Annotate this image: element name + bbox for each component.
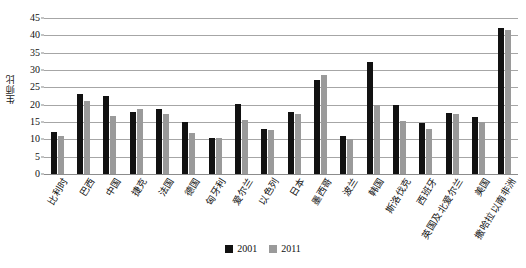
legend-label: 2011 xyxy=(281,244,301,254)
legend-item: 2011 xyxy=(269,244,301,254)
x-tick-label: 巴西 xyxy=(78,176,97,198)
bar-2001 xyxy=(314,80,320,174)
bar-2001 xyxy=(103,96,109,174)
x-tick-label: 波兰 xyxy=(341,176,360,198)
bar-group xyxy=(149,18,175,174)
chart-legend: 20012011 xyxy=(0,244,526,254)
plot-area xyxy=(44,18,518,174)
bar-2011 xyxy=(453,114,459,174)
y-tick-label: 15 xyxy=(30,117,40,127)
gridline xyxy=(44,174,518,175)
bar-group xyxy=(334,18,360,174)
bar-2011 xyxy=(426,129,432,174)
bar-group xyxy=(123,18,149,174)
bar-group xyxy=(70,18,96,174)
x-tick-label: 法国 xyxy=(157,176,176,198)
x-tick-label: 美国 xyxy=(473,176,492,198)
bar-2011 xyxy=(110,116,116,174)
bar-group xyxy=(202,18,228,174)
bar-chart: 生师比 051015202530354045 比利时巴西中国捷克法国德国匈牙利爱… xyxy=(0,0,526,268)
x-axis-labels: 比利时巴西中国捷克法国德国匈牙利爱尔兰以色列日本墨西哥波兰韩国斯洛伐克西班牙英国… xyxy=(44,176,518,250)
y-tick-label: 0 xyxy=(35,169,40,179)
bar-group xyxy=(307,18,333,174)
bar-2011 xyxy=(400,121,406,174)
x-tick-label: 比利时 xyxy=(46,176,70,207)
bar-group xyxy=(386,18,412,174)
x-tick-label: 德国 xyxy=(183,176,202,198)
bar-2011 xyxy=(163,114,169,174)
y-tick-label: 35 xyxy=(30,48,40,58)
bar-2011 xyxy=(84,101,90,174)
bar-2011 xyxy=(479,122,485,174)
y-tick-label: 40 xyxy=(30,30,40,40)
bar-2001 xyxy=(472,117,478,174)
bar-2001 xyxy=(261,129,267,174)
bar-2011 xyxy=(58,136,64,174)
bar-group xyxy=(255,18,281,174)
y-tick-label: 30 xyxy=(30,65,40,75)
bar-group xyxy=(465,18,491,174)
bar-2011 xyxy=(242,120,248,174)
y-axis-title: 生师比 xyxy=(6,54,26,124)
bar-2001 xyxy=(446,113,452,174)
bar-2001 xyxy=(51,132,57,174)
bar-2011 xyxy=(189,133,195,174)
bar-2011 xyxy=(321,75,327,174)
x-tick-label: 日本 xyxy=(289,176,308,198)
x-tick-label: 捷克 xyxy=(131,176,150,198)
x-tick-label: 以色列 xyxy=(257,176,281,207)
bar-group xyxy=(360,18,386,174)
bar-2001 xyxy=(130,112,136,174)
bar-group xyxy=(439,18,465,174)
bars-layer xyxy=(44,18,518,174)
bar-2001 xyxy=(288,112,294,174)
bar-2001 xyxy=(367,62,373,174)
y-tick-label: 25 xyxy=(30,82,40,92)
bar-group xyxy=(228,18,254,174)
bar-group xyxy=(281,18,307,174)
x-tick-label: 爱尔兰 xyxy=(231,176,255,207)
bar-2011 xyxy=(505,30,511,174)
bar-2011 xyxy=(295,114,301,174)
legend-item: 2001 xyxy=(225,244,257,254)
bar-2001 xyxy=(498,28,504,174)
y-tick-label: 5 xyxy=(35,152,40,162)
bar-2001 xyxy=(419,123,425,174)
x-tick-label: 斯洛伐克 xyxy=(383,176,413,215)
bar-2011 xyxy=(216,138,222,174)
y-tick-label: 45 xyxy=(30,13,40,23)
y-tick-label: 20 xyxy=(30,100,40,110)
y-tick-label: 10 xyxy=(30,134,40,144)
legend-label: 2001 xyxy=(237,244,257,254)
x-tick-label: 墨西哥 xyxy=(310,176,334,207)
bar-group xyxy=(44,18,70,174)
legend-swatch xyxy=(225,245,233,253)
bar-2001 xyxy=(393,105,399,174)
bar-2001 xyxy=(77,94,83,174)
bar-2011 xyxy=(268,130,274,174)
bar-2001 xyxy=(340,136,346,174)
bar-group xyxy=(176,18,202,174)
x-tick-label: 中国 xyxy=(104,176,123,198)
bar-2011 xyxy=(347,139,353,174)
bar-group xyxy=(97,18,123,174)
x-tick-label: 韩国 xyxy=(368,176,387,198)
bar-2001 xyxy=(209,138,215,174)
x-tick-label: 匈牙利 xyxy=(204,176,228,207)
bar-2001 xyxy=(156,109,162,174)
bar-2001 xyxy=(182,122,188,174)
bar-group xyxy=(492,18,518,174)
bar-2011 xyxy=(374,105,380,174)
legend-swatch xyxy=(269,245,277,253)
bar-group xyxy=(413,18,439,174)
bar-2011 xyxy=(137,109,143,174)
x-tick-label: 西班牙 xyxy=(415,176,439,207)
bar-2001 xyxy=(235,104,241,174)
